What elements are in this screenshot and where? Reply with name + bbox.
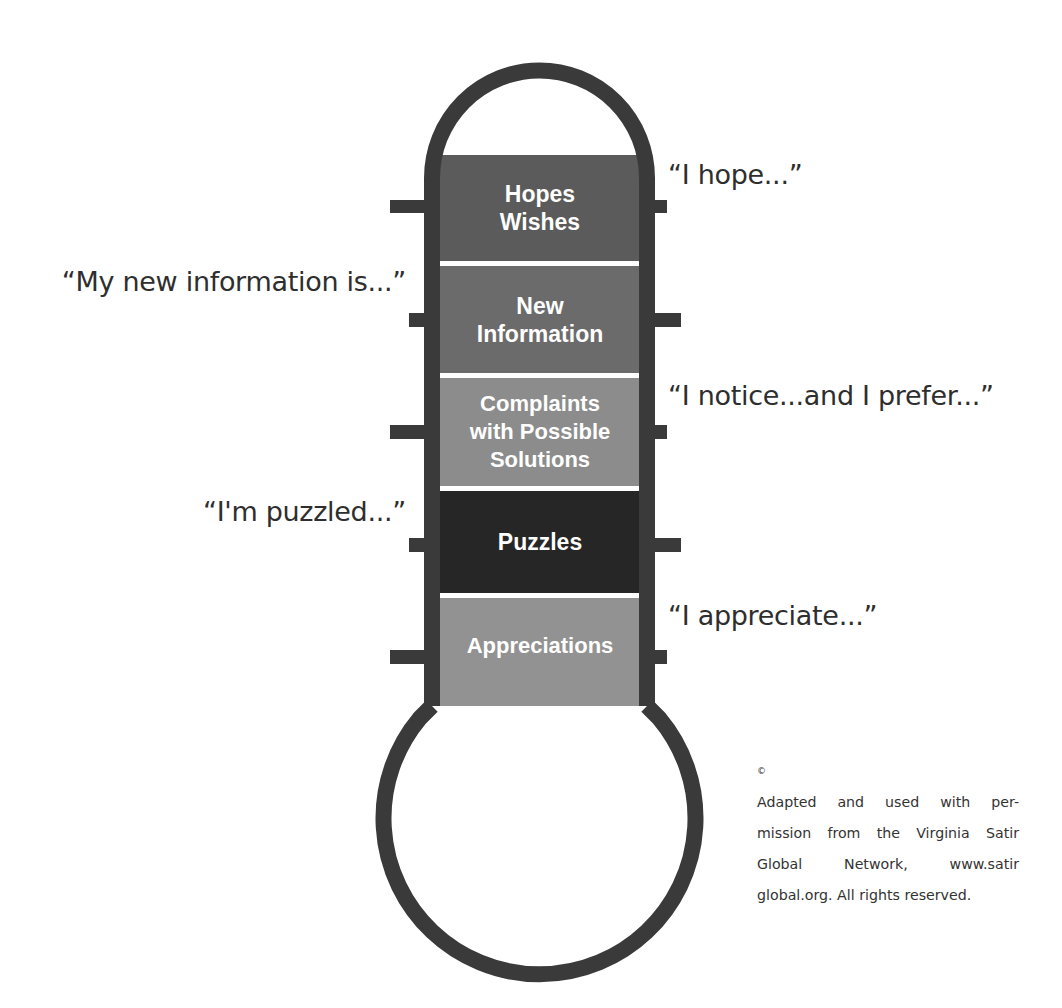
thermometer-bulb (384, 706, 696, 974)
segment-label-new-information: New Information (440, 266, 640, 373)
credit-line: mission from the Virginia Satir (757, 818, 1019, 849)
credit-line: Adapted and used with per- (757, 794, 1019, 810)
tick-left (409, 538, 426, 552)
segment-label-puzzles: Puzzles (440, 491, 640, 593)
credit-line: global.org. All rights reserved. (757, 880, 1019, 911)
quote-new-information: “My new information is...” (62, 266, 406, 297)
tick-left (409, 313, 426, 327)
segment-label-complaints: Complaints with Possible Solutions (440, 378, 640, 486)
segment-label-appreciations: Appreciations (440, 598, 640, 694)
tick-left (390, 200, 426, 213)
credit-line: Global Network, www.satir (757, 849, 1019, 880)
tick-left (390, 650, 426, 664)
tick-right (653, 200, 667, 213)
quote-hope: “I hope...” (668, 159, 802, 190)
tick-right (653, 425, 667, 439)
copyright-credit: ©Adapted and used with per- mission from… (757, 756, 1019, 911)
tick-right (653, 650, 667, 664)
tick-right (653, 538, 681, 552)
tick-left (390, 425, 426, 439)
quote-appreciate: “I appreciate...” (668, 600, 877, 631)
quote-puzzled: “I'm puzzled...” (203, 496, 406, 527)
segment-label-hopes-wishes: Hopes Wishes (440, 155, 640, 261)
quote-notice-prefer: “I notice...and I prefer...” (668, 380, 994, 411)
tick-right (653, 313, 681, 327)
copyright-icon: © (757, 756, 1017, 787)
